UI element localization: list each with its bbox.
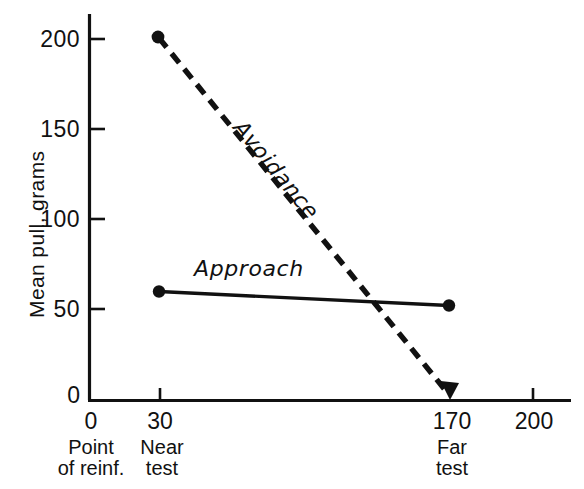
x-tick-label-0: 0 <box>85 409 98 433</box>
x-tick-label-170: 170 <box>433 409 471 433</box>
series-arrowhead-avoidance <box>441 381 460 400</box>
x-caption-line-1: Far <box>436 437 468 458</box>
y-tick-marks <box>90 39 105 309</box>
series-point-approach-near <box>153 285 165 297</box>
x-caption-point-of-reinf: Point of reinf. <box>58 437 125 479</box>
x-caption-line-2: of reinf. <box>58 458 125 479</box>
chart-figure: Mean pull, grams 200 150 100 50 0 0 30 1… <box>0 0 584 489</box>
series-point-approach-far <box>443 299 455 311</box>
x-caption-line-1: Near <box>140 437 183 458</box>
x-caption-far-test: Far test <box>436 437 468 479</box>
y-axis-title: Mean pull, grams <box>26 151 48 318</box>
series-label-approach: Approach <box>194 257 304 280</box>
x-tick-label-30: 30 <box>147 409 173 433</box>
y-tick-label-200: 200 <box>18 27 80 51</box>
x-caption-line-1: Point <box>58 437 125 458</box>
x-caption-line-2: test <box>436 458 468 479</box>
y-tick-label-50: 50 <box>18 297 80 321</box>
y-tick-label-150: 150 <box>18 117 80 141</box>
y-tick-label-0: 0 <box>18 383 80 407</box>
series-point-avoidance-near <box>152 31 165 44</box>
series-line-approach <box>159 292 449 306</box>
x-caption-line-2: test <box>140 458 183 479</box>
y-tick-label-100: 100 <box>18 207 80 231</box>
x-tick-label-200: 200 <box>515 409 553 433</box>
x-caption-near-test: Near test <box>140 437 183 479</box>
